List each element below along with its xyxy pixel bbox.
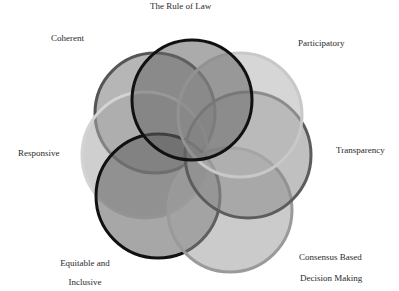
label-consensus-line2: Decision Making <box>300 273 362 284</box>
label-consensus-line1: Consensus Based <box>299 252 362 263</box>
label-equitable-line2: Inclusive <box>50 277 120 288</box>
circle-the-rule-of-law <box>132 40 252 160</box>
label-responsive: Responsive <box>18 148 60 159</box>
label-equitable-inclusive: Equitable and Inclusive <box>50 258 120 288</box>
circle-group <box>82 40 311 272</box>
label-transparency: Transparency <box>336 145 385 156</box>
label-rule-of-law: The Rule of Law <box>150 1 211 12</box>
label-equitable-line1: Equitable and <box>50 258 120 269</box>
label-coherent: Coherent <box>51 33 84 44</box>
label-participatory: Participatory <box>298 38 345 49</box>
